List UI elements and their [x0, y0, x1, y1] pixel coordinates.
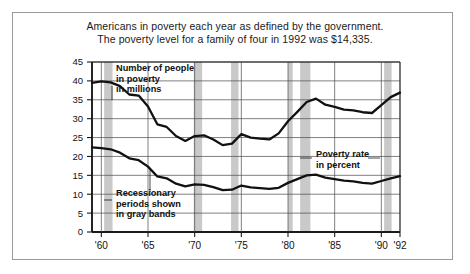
- series-annotations: Number of peoplein povertyin millionsRec…: [116, 63, 369, 219]
- recession-band: [104, 62, 112, 232]
- y-axis-tick-label: 35: [72, 94, 83, 105]
- y-axis-tick-label: 30: [72, 113, 83, 124]
- annotation-bands-line-1: Recessionary: [116, 188, 177, 198]
- x-axis-tick-label: '75: [235, 240, 248, 251]
- y-axis-tick-label: 0: [78, 226, 83, 237]
- annotation-bands-line-3: in gray bands: [116, 209, 176, 219]
- annotation-series1-line-1: Number of people: [116, 63, 194, 73]
- y-axis-tick-label: 20: [72, 151, 83, 162]
- recession-band: [384, 62, 391, 232]
- y-axis-tick-label: 45: [72, 56, 83, 67]
- annotation-series1-line-3: in millions: [116, 84, 161, 94]
- y-axis-tick-label: 40: [72, 75, 83, 86]
- y-axis-tick-label: 15: [72, 170, 83, 181]
- recession-band: [300, 62, 310, 232]
- annotation-series2-line-2: in percent: [316, 160, 360, 170]
- annotation-bands-line-2: periods shown: [116, 199, 181, 209]
- annotation-series1-line-2: in poverty: [116, 74, 161, 84]
- x-axis-tick-label: '70: [188, 240, 201, 251]
- y-axis-ticks: 051015202530354045: [72, 56, 92, 237]
- recession-band: [288, 62, 293, 232]
- y-axis-tick-label: 25: [72, 132, 83, 143]
- x-axis-tick-label: '65: [141, 240, 154, 251]
- x-axis-tick-label: '85: [328, 240, 341, 251]
- chart-plot: 051015202530354045 '60'65'70'75'80'85'90…: [0, 0, 470, 274]
- y-axis-tick-label: 10: [72, 189, 83, 200]
- x-axis-tick-label: '90: [375, 240, 388, 251]
- x-axis-tick-label: '60: [95, 240, 108, 251]
- y-axis-tick-label: 5: [78, 208, 83, 219]
- annotation-series2-line-1: Poverty rate: [316, 149, 369, 159]
- x-axis-tick-label: '92: [393, 240, 406, 251]
- poverty-chart-figure: Americans in poverty each year as define…: [0, 0, 470, 274]
- recession-band: [231, 62, 238, 232]
- data-series: [92, 81, 400, 190]
- x-axis-tick-label: '80: [281, 240, 294, 251]
